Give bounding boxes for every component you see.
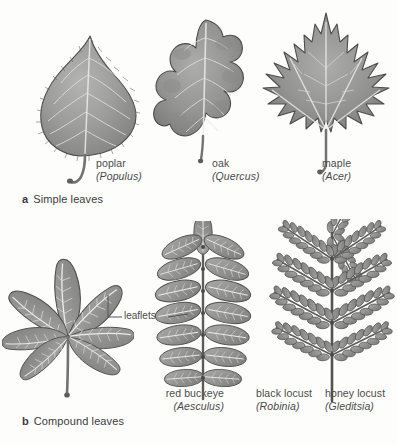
label-maple: maple (Acer)	[322, 157, 351, 182]
panel-simple-leaves: poplar (Populus)	[0, 0, 397, 215]
specimen-honey-locust	[266, 219, 397, 407]
label-oak: oak (Quercus)	[212, 157, 260, 182]
specimen-maple	[258, 8, 394, 178]
annotation-leaflets: leaflets	[124, 310, 156, 321]
specimen-oak	[152, 14, 260, 174]
oak-leaf-icon	[152, 14, 260, 174]
maple-leaf-icon	[258, 8, 394, 178]
label-poplar: poplar (Populus)	[96, 157, 142, 182]
honey-locust-leaf-icon	[266, 219, 397, 407]
caption-compound-leaves: bCompound leaves	[22, 415, 124, 427]
panel-compound-leaves: red buckeye (Aesculus)	[0, 215, 397, 445]
label-honey-locust: honey locust (Gleditsia)	[325, 387, 385, 412]
leaf-morphology-figure: poplar (Populus)	[0, 0, 397, 445]
caption-simple-leaves: aSimple leaves	[22, 193, 103, 205]
